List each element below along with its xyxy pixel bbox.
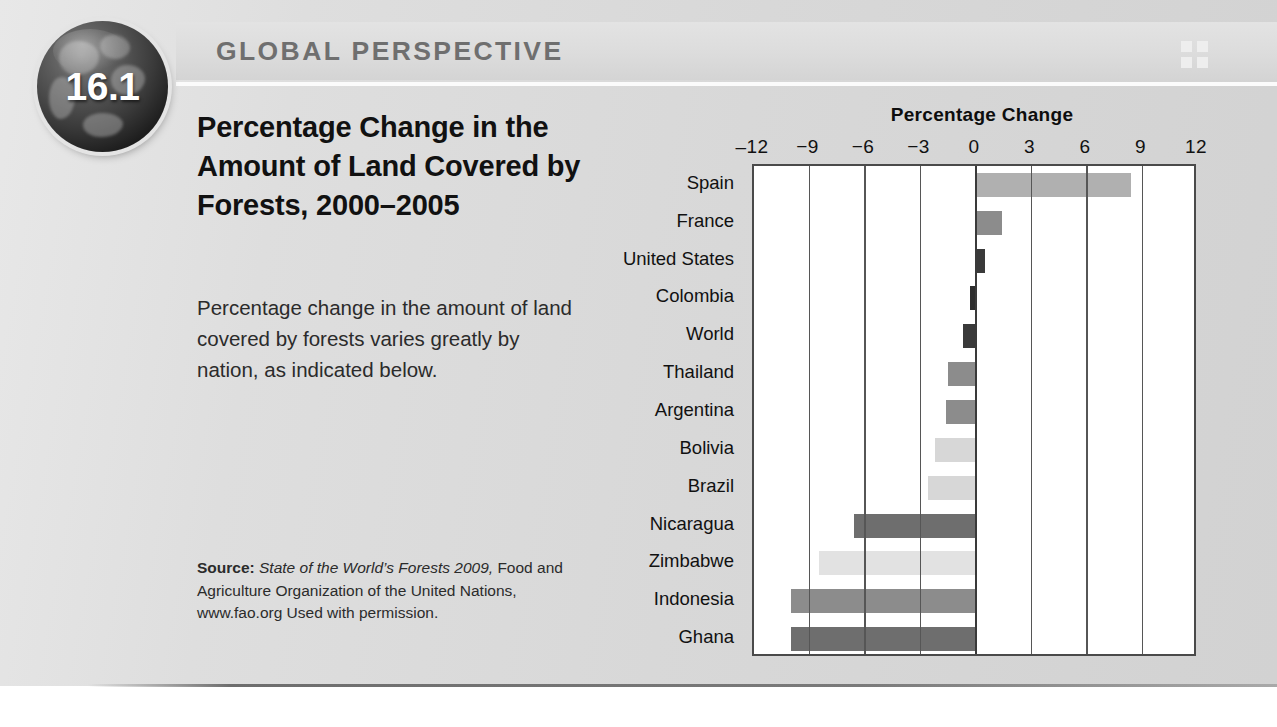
category-label: Nicaragua: [650, 513, 734, 535]
x-axis-ticks: ‒12−9−6−3036912: [752, 136, 1196, 162]
gridline: [920, 166, 922, 654]
grid-square-3: [1181, 57, 1192, 68]
x-tick-label: ‒12: [735, 136, 768, 158]
x-tick-label: −3: [907, 136, 930, 158]
header-separator: [176, 82, 1277, 86]
bar: [791, 627, 976, 651]
x-tick-label: 9: [1135, 136, 1146, 158]
global-perspective-panel: GLOBAL PERSPECTIVE 16.1 Percentage Chang…: [0, 0, 1277, 686]
x-tick-label: −6: [852, 136, 875, 158]
bar: [976, 211, 1002, 235]
globe-badge: 16.1: [37, 21, 168, 152]
gridline: [1086, 166, 1088, 654]
source-label: Source:: [197, 559, 255, 576]
x-tick-label: 0: [968, 136, 979, 158]
badge-number: 16.1: [37, 21, 168, 152]
bar-rows: [754, 166, 1194, 654]
category-label: Argentina: [655, 399, 734, 421]
category-label: Spain: [687, 172, 734, 194]
bar: [946, 400, 976, 424]
bar: [976, 173, 1131, 197]
gridline: [1031, 166, 1033, 654]
banner-title: GLOBAL PERSPECTIVE: [216, 36, 564, 67]
plot-area: [752, 164, 1196, 656]
category-label: World: [686, 323, 734, 345]
grid-square-1: [1181, 41, 1192, 52]
category-label: Colombia: [656, 285, 734, 307]
gridline: [1142, 166, 1144, 654]
category-label: Zimbabwe: [649, 550, 734, 572]
gridline: [809, 166, 811, 654]
category-label: France: [676, 210, 734, 232]
bar-chart: Percentage Change ‒12−9−6−3036912 SpainF…: [612, 104, 1212, 664]
x-tick-label: 6: [1079, 136, 1090, 158]
chart-title: Percentage Change: [752, 104, 1212, 126]
x-tick-label: −9: [796, 136, 819, 158]
bar: [976, 249, 985, 273]
figure-title: Percentage Change in the Amount of Land …: [197, 108, 597, 225]
bar: [854, 514, 976, 538]
grid-square-2: [1197, 41, 1208, 52]
bar: [935, 438, 976, 462]
grid-2x2-icon: [1181, 41, 1208, 68]
gridline: [864, 166, 866, 654]
category-label: United States: [623, 248, 734, 270]
grid-square-4: [1197, 57, 1208, 68]
bar: [819, 551, 976, 575]
category-label: Brazil: [688, 475, 734, 497]
bar: [948, 362, 976, 386]
bar: [928, 476, 976, 500]
category-label: Ghana: [678, 626, 734, 648]
category-labels: SpainFranceUnited StatesColombiaWorldTha…: [612, 164, 744, 656]
zero-line: [975, 166, 977, 654]
category-label: Bolivia: [680, 437, 735, 459]
bar: [791, 589, 976, 613]
figure-description: Percentage change in the amount of land …: [197, 292, 577, 385]
figure-page: GLOBAL PERSPECTIVE 16.1 Percentage Chang…: [0, 0, 1277, 727]
figure-source: Source: State of the World’s Forests 200…: [197, 557, 572, 625]
panel-bottom-rule: [88, 684, 1277, 687]
source-title: State of the World’s Forests 2009,: [259, 559, 493, 576]
x-tick-label: 12: [1185, 136, 1207, 158]
x-tick-label: 3: [1024, 136, 1035, 158]
category-label: Thailand: [663, 361, 734, 383]
category-label: Indonesia: [654, 588, 734, 610]
